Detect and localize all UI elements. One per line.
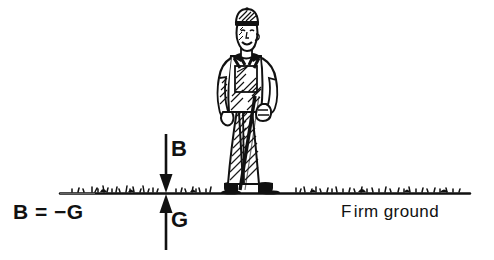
standing-worker-illustration [218, 7, 281, 194]
worker-head [237, 22, 260, 51]
worker-cap [235, 7, 259, 26]
force-label-g: G [171, 209, 188, 231]
ground-label-first-letter: F [341, 202, 354, 221]
force-label-b: B [171, 138, 187, 160]
ground-label-rest: irm ground [354, 202, 439, 221]
equation-label: B = −G [13, 201, 84, 222]
ground-label: Firm ground [341, 203, 439, 220]
